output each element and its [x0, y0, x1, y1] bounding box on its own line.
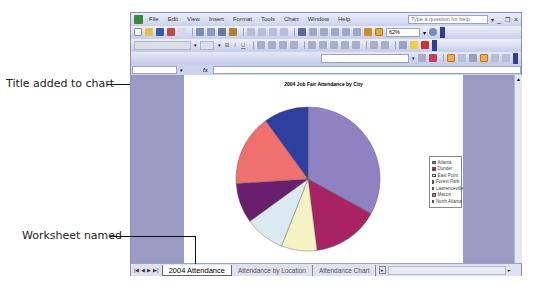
help-icon[interactable] — [429, 28, 437, 36]
email-icon[interactable] — [178, 28, 186, 36]
name-box[interactable] — [132, 66, 177, 74]
sort-ascending-icon[interactable] — [342, 28, 350, 36]
data-table-icon[interactable] — [458, 54, 466, 62]
drawing-icon[interactable] — [375, 28, 383, 36]
close-icon[interactable]: × — [514, 16, 518, 23]
currency-icon[interactable] — [308, 41, 316, 49]
font-size-select[interactable] — [200, 41, 214, 50]
menu-format[interactable]: Format — [233, 16, 252, 22]
excel-app-icon[interactable] — [134, 15, 143, 24]
insert-function-icon[interactable]: fx — [203, 67, 208, 73]
align-left-icon[interactable] — [257, 41, 265, 49]
autosum-icon[interactable] — [331, 28, 339, 36]
first-sheet-icon[interactable]: |◀ — [134, 267, 139, 273]
tab-2004-attendance[interactable]: 2004 Attendance — [162, 265, 232, 276]
prev-sheet-icon[interactable]: ◀ — [141, 267, 145, 273]
redo-icon[interactable] — [309, 28, 317, 36]
legend-swatch — [432, 187, 434, 191]
decrease-decimal-icon[interactable] — [352, 41, 360, 49]
tab-attendance-by-location[interactable]: Attendance by Location — [232, 265, 313, 276]
tab-attendance-chart[interactable]: Attendance Chart — [313, 265, 377, 276]
chart-area[interactable]: 2004 Job Fair Attendance by City Atlanta… — [184, 75, 463, 263]
legend-label: Forest Park — [436, 179, 459, 184]
paste-icon[interactable] — [269, 28, 277, 36]
increase-decimal-icon[interactable] — [341, 41, 349, 49]
sheet-tabs-bar: |◀ ◀ ▶ ▶| 2004 Attendance Attendance by … — [131, 263, 521, 276]
chart-title[interactable]: 2004 Job Fair Attendance by City — [184, 81, 463, 87]
chart-type-icon[interactable] — [429, 54, 437, 62]
horizontal-scrollbar[interactable] — [388, 266, 506, 275]
menu-window[interactable]: Window — [308, 16, 329, 22]
format-painter-icon[interactable] — [280, 28, 288, 36]
borders-icon[interactable] — [399, 41, 407, 49]
angle-text-up-icon[interactable] — [502, 54, 510, 62]
chart-legend[interactable]: AtlantaDunderEast PointForest ParkLawren… — [429, 156, 462, 208]
next-sheet-icon[interactable]: ▶ — [147, 267, 151, 273]
spelling-icon[interactable] — [218, 28, 226, 36]
decrease-indent-icon[interactable] — [370, 41, 378, 49]
menu-help[interactable]: Help — [338, 16, 350, 22]
tab-scroll-right-icon[interactable]: ▸ — [379, 266, 386, 274]
toolbar-separator — [192, 28, 193, 36]
menu-insert[interactable]: Insert — [209, 16, 224, 22]
standard-toolbar: ▾ — [131, 26, 521, 38]
legend-label: Dunder — [438, 166, 453, 171]
underline-icon[interactable]: U — [241, 42, 245, 48]
vertical-scrollbar[interactable]: ▲ — [514, 75, 522, 263]
increase-indent-icon[interactable] — [381, 41, 389, 49]
font-name-dropdown-icon[interactable]: ▾ — [194, 42, 197, 48]
chart-objects-select[interactable] — [321, 54, 409, 63]
merge-center-icon[interactable] — [290, 41, 298, 49]
align-right-icon[interactable] — [279, 41, 287, 49]
cut-icon[interactable] — [247, 28, 255, 36]
menu-view[interactable]: View — [187, 16, 200, 22]
zoom-select[interactable] — [386, 28, 420, 37]
toolbar-options-icon[interactable] — [432, 40, 437, 51]
format-chart-area-icon[interactable] — [418, 54, 426, 62]
permission-icon[interactable] — [167, 28, 175, 36]
bold-icon[interactable]: B — [225, 42, 229, 48]
help-search-input[interactable] — [408, 15, 488, 24]
undo-icon[interactable] — [298, 28, 306, 36]
fill-color-icon[interactable] — [410, 41, 418, 49]
print-preview-icon[interactable] — [207, 28, 215, 36]
chart-objects-dropdown-icon[interactable]: ▾ — [412, 55, 415, 61]
menu-tools[interactable]: Tools — [261, 16, 275, 22]
italic-icon[interactable]: I — [234, 42, 236, 48]
legend-icon[interactable] — [447, 54, 455, 62]
font-name-select[interactable] — [134, 41, 191, 50]
percent-icon[interactable] — [319, 41, 327, 49]
menu-file[interactable]: File — [149, 16, 159, 22]
print-icon[interactable] — [196, 28, 204, 36]
center-icon[interactable] — [268, 41, 276, 49]
comma-icon[interactable] — [330, 41, 338, 49]
chart-wizard-icon[interactable] — [364, 28, 372, 36]
research-icon[interactable] — [229, 28, 237, 36]
help-dropdown-icon[interactable]: ▾ — [491, 16, 494, 23]
formula-input[interactable] — [213, 66, 521, 74]
menu-chart[interactable]: Chart — [284, 16, 299, 22]
toolbar-options-icon[interactable] — [513, 53, 518, 64]
zoom-dropdown-icon[interactable]: ▾ — [423, 29, 426, 36]
scroll-right-icon[interactable]: ▸ — [508, 267, 511, 273]
angle-text-down-icon[interactable] — [491, 54, 499, 62]
scroll-up-icon[interactable]: ▲ — [515, 75, 522, 83]
toolbar-options-icon[interactable] — [440, 27, 445, 38]
by-row-icon[interactable] — [469, 54, 477, 62]
font-size-dropdown-icon[interactable]: ▾ — [218, 42, 221, 48]
legend-label: Atlanta — [438, 160, 452, 165]
sort-descending-icon[interactable] — [353, 28, 361, 36]
by-column-icon[interactable] — [480, 54, 488, 62]
minimize-icon[interactable]: _ — [497, 16, 501, 23]
save-icon[interactable] — [156, 28, 164, 36]
open-icon[interactable] — [145, 28, 153, 36]
font-color-icon[interactable] — [421, 41, 429, 49]
restore-icon[interactable]: ❐ — [505, 16, 510, 23]
copy-icon[interactable] — [258, 28, 266, 36]
pie-chart[interactable] — [235, 106, 381, 252]
hyperlink-icon[interactable] — [320, 28, 328, 36]
name-box-dropdown-icon[interactable]: ▾ — [180, 67, 183, 73]
menu-edit[interactable]: Edit — [168, 16, 178, 22]
last-sheet-icon[interactable]: ▶| — [153, 267, 158, 273]
new-icon[interactable] — [134, 28, 142, 36]
